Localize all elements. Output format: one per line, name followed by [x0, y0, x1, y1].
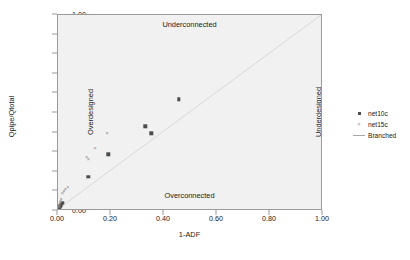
data-point-net15c: × [93, 146, 98, 151]
legend-entry[interactable]: ×net15c [352, 119, 408, 130]
x-marker-icon: × [352, 122, 366, 127]
branched-reference-line [58, 15, 321, 209]
x-tick-label: 0.40 [156, 214, 170, 223]
x-tick-mark [110, 210, 111, 215]
data-point-net10c [150, 132, 153, 135]
scatter-chart-figure: Qpipe/Qtotal 0.000.100.200.300.400.500.6… [0, 0, 410, 260]
x-tick-label: 0.80 [262, 214, 276, 223]
data-point-net15c: × [57, 205, 61, 210]
annotation-overdesigned: Overdesigned [86, 89, 95, 135]
square-marker-icon [352, 112, 366, 115]
data-point-net10c [87, 175, 90, 178]
x-tick-label: 0.60 [209, 214, 223, 223]
legend-entry[interactable]: net10c [352, 108, 408, 119]
x-tick-label: 1.00 [315, 214, 329, 223]
line-marker-icon [352, 135, 366, 136]
x-tick-label: 0.20 [103, 214, 117, 223]
legend-label: net15c [366, 121, 388, 128]
chart-legend: net10c×net15cBranched [352, 108, 408, 141]
data-point-net15c: × [86, 157, 91, 162]
data-point-net10c [177, 98, 180, 101]
x-tick-mark [57, 210, 58, 215]
legend-label: Branched [366, 132, 396, 139]
x-tick-label: 0.00 [50, 214, 64, 223]
x-tick-mark [163, 210, 164, 215]
data-point-net10c [144, 125, 147, 128]
x-tick-mark [216, 210, 217, 215]
annotation-underdesigned: Underdesigned [313, 87, 322, 137]
plot-inner: ×××××××××××××× Underconnected Overconnec… [58, 15, 321, 209]
annotation-underconnected: Underconnected [162, 20, 216, 29]
x-axis-title: 1-ADF [57, 230, 322, 239]
annotation-overconnected: Overconnected [164, 191, 214, 200]
data-point-net15c: × [105, 130, 110, 135]
x-tick-mark [322, 210, 323, 215]
x-tick-mark [269, 210, 270, 215]
plot-area: ×××××××××××××× Underconnected Overconnec… [57, 14, 322, 210]
y-axis-title: Qpipe/Qtotal [7, 96, 16, 138]
legend-entry[interactable]: Branched [352, 130, 408, 141]
data-point-net10c [107, 153, 110, 156]
legend-label: net10c [366, 110, 388, 117]
